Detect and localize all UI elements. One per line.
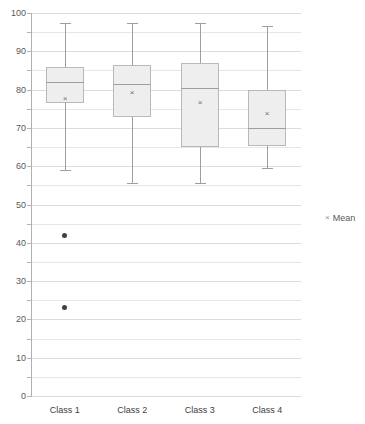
y-axis-tick <box>27 70 31 71</box>
y-axis-tick <box>27 128 31 129</box>
y-axis-tick <box>27 51 31 52</box>
whisker-cap-top <box>195 23 206 24</box>
y-axis-tick <box>27 224 31 225</box>
y-axis-tick <box>27 185 31 186</box>
gridline <box>31 51 301 52</box>
gridline <box>31 166 301 167</box>
y-axis-tick <box>27 32 31 33</box>
x-axis-tick-label: Class 1 <box>30 405 100 416</box>
gridline <box>31 32 301 33</box>
whisker-cap-top <box>60 23 71 24</box>
y-axis-tick <box>27 243 31 244</box>
box-iqr <box>248 90 286 146</box>
outlier-point <box>62 305 67 310</box>
mean-marker: × <box>60 95 70 103</box>
y-axis-tick-label: 50 <box>2 200 26 210</box>
median-line <box>248 128 286 129</box>
gridline <box>31 262 301 263</box>
y-axis-tick <box>27 396 31 397</box>
plot-area: ×××× <box>0 0 365 424</box>
mean-marker: × <box>195 99 205 107</box>
y-axis-tick-label: 20 <box>2 314 26 324</box>
y-axis-tick-label: 60 <box>2 161 26 171</box>
gridline <box>31 281 301 282</box>
y-axis-tick-label: 30 <box>2 276 26 286</box>
gridline <box>31 243 301 244</box>
legend-label: Mean <box>333 213 356 223</box>
gridline <box>31 396 301 397</box>
x-axis-tick-label: Class 4 <box>232 405 302 416</box>
gridline <box>31 377 301 378</box>
y-axis-tick <box>27 166 31 167</box>
gridline <box>31 319 301 320</box>
y-axis-tick-label: 10 <box>2 353 26 363</box>
legend-marker-icon: × <box>325 213 330 222</box>
y-axis-tick <box>27 300 31 301</box>
mean-marker: × <box>127 89 137 97</box>
y-axis-tick <box>27 358 31 359</box>
whisker-cap-bottom <box>127 183 138 184</box>
x-axis-tick-label: Class 3 <box>165 405 235 416</box>
y-axis-tick-label: 90 <box>2 46 26 56</box>
y-axis-tick-label: 70 <box>2 123 26 133</box>
y-axis-tick <box>27 147 31 148</box>
mean-marker: × <box>262 110 272 118</box>
y-axis-tick-label: 40 <box>2 238 26 248</box>
whisker-cap-bottom <box>262 168 273 169</box>
y-axis-tick <box>27 90 31 91</box>
y-axis-tick <box>27 281 31 282</box>
whisker-cap-bottom <box>195 183 206 184</box>
gridline <box>31 147 301 148</box>
median-line <box>46 82 84 83</box>
y-axis-tick-label: 80 <box>2 85 26 95</box>
y-axis-tick <box>27 205 31 206</box>
gridline <box>31 205 301 206</box>
whisker-cap-top <box>262 26 273 27</box>
y-axis-tick <box>27 319 31 320</box>
gridline <box>31 300 301 301</box>
median-line <box>181 88 219 89</box>
whisker-cap-bottom <box>60 170 71 171</box>
y-axis-tick <box>27 339 31 340</box>
gridline <box>31 13 301 14</box>
outlier-point <box>62 233 67 238</box>
y-axis-line <box>31 13 32 397</box>
x-axis-tick-label: Class 2 <box>97 405 167 416</box>
gridline <box>31 224 301 225</box>
box-plot-chart: ×××× 0102030405060708090100 Class 1Class… <box>0 0 365 424</box>
chart-legend: ×Mean <box>325 213 355 223</box>
median-line <box>113 84 151 85</box>
gridline <box>31 339 301 340</box>
y-axis-tick-label: 100 <box>2 8 26 18</box>
y-axis-tick-label: 0 <box>2 391 26 401</box>
gridline <box>31 185 301 186</box>
whisker-cap-top <box>127 23 138 24</box>
y-axis-tick <box>27 262 31 263</box>
y-axis-tick <box>27 377 31 378</box>
y-axis-tick <box>27 13 31 14</box>
gridline <box>31 358 301 359</box>
y-axis-tick <box>27 109 31 110</box>
